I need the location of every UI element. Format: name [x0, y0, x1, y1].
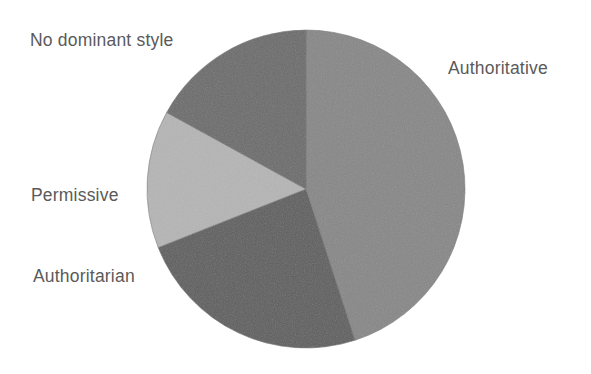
- pie-label-no-dominant-style: No dominant style: [30, 32, 173, 50]
- pie-label-authoritarian: Authoritarian: [33, 268, 135, 286]
- pie-label-authoritative: Authoritative: [448, 60, 548, 78]
- pie-slices-group: [147, 30, 465, 348]
- pie-chart-figure: No dominant style Authoritative Permissi…: [0, 0, 591, 374]
- pie-label-permissive: Permissive: [31, 187, 119, 205]
